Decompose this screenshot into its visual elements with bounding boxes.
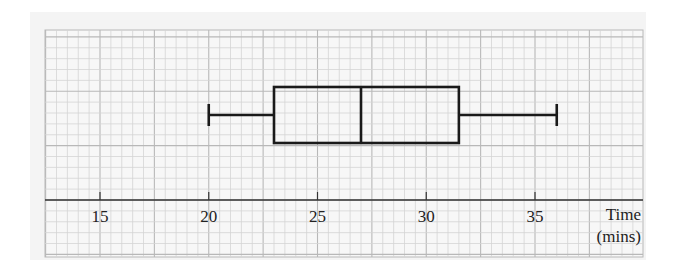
x-axis-title-line1: Time [606,205,641,224]
x-tick-label: 20 [200,207,217,226]
x-tick-label: 30 [418,207,435,226]
x-tick-label: 35 [527,207,544,226]
x-axis-title-line2: (mins) [597,227,641,246]
boxplot-chart: 1520253035 Time (mins) [0,0,675,272]
x-tick-label: 25 [309,207,326,226]
x-tick-label: 15 [92,207,109,226]
